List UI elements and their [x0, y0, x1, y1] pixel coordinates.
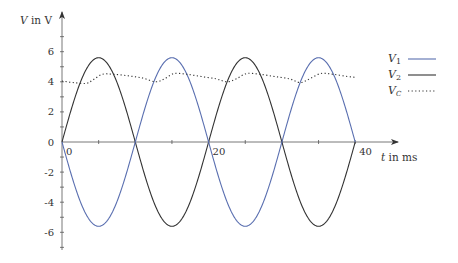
legend-label-v2: V2	[388, 68, 401, 82]
y-tick-label: -4	[44, 197, 54, 208]
x-tick-label: 40	[359, 146, 372, 157]
x-tick-label: 20	[213, 146, 226, 157]
y-tick-label: 2	[48, 106, 54, 117]
legend-item-v2: V2	[388, 68, 436, 82]
x-axis-label: t in ms	[381, 151, 417, 163]
chart: 02040 -6-4-20246 V in V t in ms V1 V2 VC	[0, 0, 458, 263]
legend-label-v1: V1	[388, 52, 401, 66]
y-tick-label: 0	[48, 137, 54, 148]
y-tick-label: 4	[48, 76, 54, 87]
x-tick-labels: 02040	[66, 146, 372, 157]
y-tick-label: -2	[44, 167, 54, 178]
legend: V1 V2 VC	[388, 52, 436, 98]
y-tick-label: 6	[48, 46, 54, 57]
legend-item-vc: VC	[388, 84, 436, 98]
series-vc-line	[62, 73, 355, 83]
axes: 02040 -6-4-20246 V in V t in ms	[20, 12, 417, 250]
y-tick-label: -6	[44, 227, 54, 238]
y-axis-label: V in V	[20, 14, 52, 26]
y-tick-labels: -6-4-20246	[44, 46, 54, 238]
legend-label-vc: VC	[388, 84, 402, 98]
legend-item-v1: V1	[388, 52, 436, 66]
x-tick-label: 0	[66, 146, 72, 157]
